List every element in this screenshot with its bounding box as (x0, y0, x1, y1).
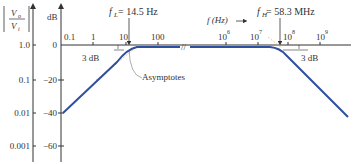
vi-label: V (11, 21, 18, 31)
ratio-tick: 0.1 (19, 75, 30, 85)
freq-axis: 0.1 1 10 100 10 6 10 7 10 8 10 9 f (Hz) (61, 15, 351, 45)
bode-plot: V o V i 1.0 0.1 0.01 0.001 dB 0 −20 −40 … (0, 0, 353, 164)
freq-label: f (Hz) (207, 15, 228, 25)
db-tick: −20 (43, 75, 58, 85)
db-tick: −60 (43, 141, 58, 151)
svg-text:8: 8 (292, 29, 295, 35)
ratio-axis: V o V i 1.0 0.1 0.01 0.001 (4, 6, 36, 162)
freq-tick: 1 (91, 32, 96, 42)
three-db-left: 3 dB (82, 53, 99, 63)
ratio-tick: 0.01 (14, 108, 30, 118)
ratio-tick: 0.001 (10, 141, 30, 151)
svg-text:f: f (257, 6, 261, 17)
three-db-right: 3 dB (301, 53, 318, 63)
db-tick: −40 (43, 108, 58, 118)
asymptotes-label: Asymptotes (142, 72, 185, 82)
freq-tick: 0.1 (64, 32, 75, 42)
fh-value: = 58.3 MHz (266, 6, 315, 17)
fl-value: = 14.5 Hz (118, 6, 158, 17)
db-label: dB (47, 12, 58, 22)
vo-label: V (11, 8, 18, 18)
ratio-tick: 1.0 (19, 40, 31, 50)
db-axis: dB 0 −20 −40 −60 (43, 6, 64, 162)
svg-text:i: i (18, 26, 20, 32)
axis-break: // (181, 42, 187, 52)
db-tick: 0 (53, 40, 58, 50)
svg-text:o: o (18, 13, 21, 19)
svg-text:9: 9 (325, 29, 328, 35)
svg-text:7: 7 (259, 29, 262, 35)
svg-text:f: f (109, 6, 113, 17)
freq-tick: 100 (151, 32, 165, 42)
freq-tick: 10 (119, 32, 129, 42)
asymptotes: Asymptotes (96, 37, 282, 82)
svg-text:6: 6 (227, 29, 230, 35)
